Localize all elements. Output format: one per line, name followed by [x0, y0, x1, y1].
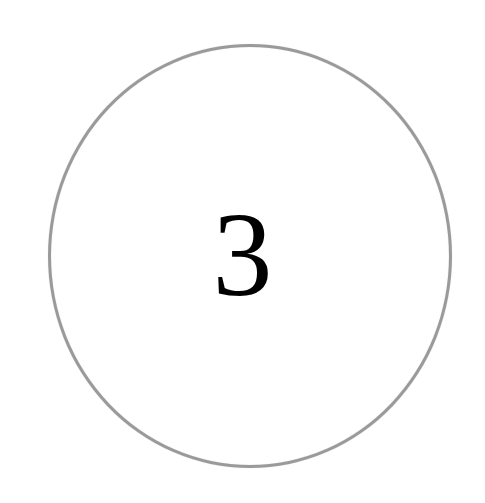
number-badge-canvas: 3 — [0, 0, 485, 503]
badge-number: 3 — [0, 0, 485, 503]
